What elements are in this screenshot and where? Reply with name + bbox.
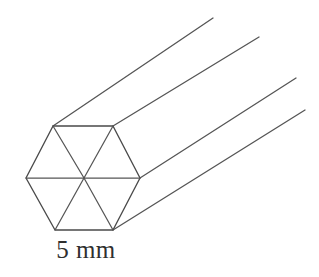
extrusion-lines-group xyxy=(53,18,305,230)
dimension-label: 5 mm xyxy=(0,236,172,264)
division-line-to-bottom-right xyxy=(84,178,113,230)
extrusion-line-top-right xyxy=(113,37,259,126)
extrusion-line-bottom-right xyxy=(113,110,305,230)
division-line-to-top-right xyxy=(84,126,113,178)
figure-root: 5 mm xyxy=(0,0,319,277)
division-line-to-bottom-left xyxy=(55,178,84,230)
extrusion-line-right xyxy=(140,78,296,178)
hexagon-internal-divisions xyxy=(26,126,140,230)
extrusion-line-top-left xyxy=(53,18,213,126)
division-line-to-top-left xyxy=(53,126,84,178)
